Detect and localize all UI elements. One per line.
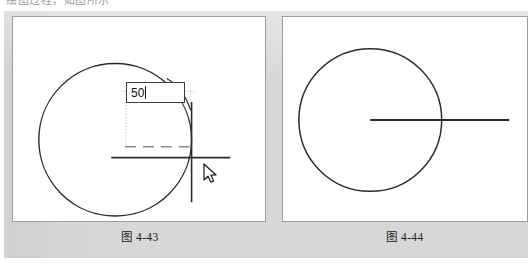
cropped-top-text-line: 绘图过程，如图所示 bbox=[0, 0, 532, 9]
figure-plate: 50 图 4-43 图 4-44 bbox=[4, 11, 528, 258]
drawing-canvas-left[interactable]: 50 bbox=[12, 16, 266, 222]
drawing-geometry-left bbox=[13, 17, 265, 221]
figure-block-right: 图 4-44 bbox=[282, 16, 528, 222]
text-caret bbox=[145, 86, 146, 99]
drawing-geometry-right bbox=[283, 17, 527, 221]
dimension-input-value: 50 bbox=[127, 87, 144, 99]
figure-caption-right: 图 4-44 bbox=[282, 228, 528, 244]
dimension-input-box[interactable]: 50 bbox=[126, 82, 185, 103]
cropped-top-text: 绘图过程，如图所示 bbox=[6, 0, 110, 7]
figure-caption-left: 图 4-43 bbox=[12, 228, 268, 244]
figure-block-left: 50 图 4-43 bbox=[12, 16, 268, 222]
mouse-pointer-icon bbox=[203, 163, 219, 185]
drawing-canvas-right[interactable] bbox=[282, 16, 528, 222]
